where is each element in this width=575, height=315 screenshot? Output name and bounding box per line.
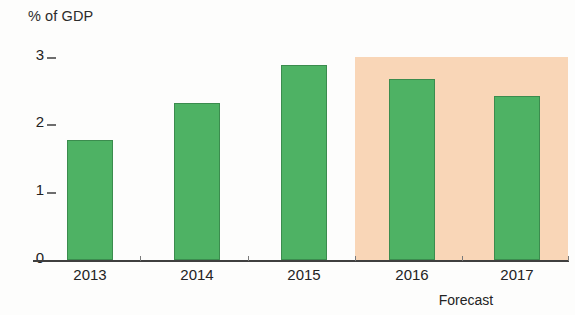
bar-2015 <box>281 65 327 260</box>
bar-2014 <box>174 103 220 260</box>
forecast-caption: Forecast <box>396 292 536 308</box>
y-tick-1: 1 <box>0 181 58 199</box>
y-tick-3: 3 <box>0 46 58 64</box>
bar-chart: % of GDP 3 2 1 0 <box>0 0 575 315</box>
y-tick-dash-1 <box>47 192 56 194</box>
x-axis-label-2017: 2017 <box>472 266 562 283</box>
y-tick-label-2: 2 <box>36 113 44 131</box>
x-tickmark-5 <box>568 256 569 261</box>
x-tickmark-2 <box>248 256 249 261</box>
plot-area: 3 2 1 0 2013 2014 201 <box>0 0 575 315</box>
bar-2016 <box>389 79 435 260</box>
y-tick-0: 0 <box>0 249 58 267</box>
y-tick-label-3: 3 <box>36 46 44 64</box>
y-tick-2: 2 <box>0 113 58 131</box>
y-tick-label-1: 1 <box>36 181 44 199</box>
bar-2017 <box>494 96 540 260</box>
y-tick-dash-3 <box>47 57 56 59</box>
x-tickmark-4 <box>462 256 463 261</box>
y-tick-dash-2 <box>47 124 56 126</box>
x-axis-line <box>33 260 569 262</box>
x-axis-label-2013: 2013 <box>45 266 135 283</box>
y-tick-label-0: 0 <box>36 249 44 267</box>
x-axis-label-2014: 2014 <box>152 266 242 283</box>
x-axis-label-2015: 2015 <box>259 266 349 283</box>
bar-2013 <box>67 140 113 260</box>
x-tickmark-3 <box>355 256 356 261</box>
x-axis-label-2016: 2016 <box>367 266 457 283</box>
x-tickmark-1 <box>140 256 141 261</box>
